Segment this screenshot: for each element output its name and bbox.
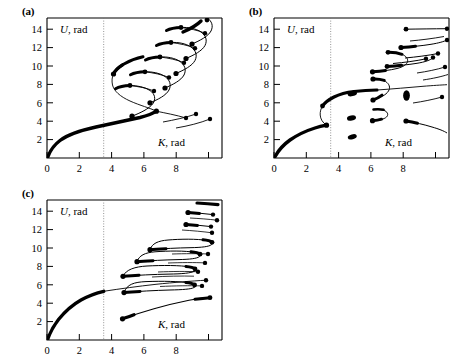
panel-c-xtick-4: 4 (109, 345, 115, 356)
panel-b-ytick-14: 14 (259, 24, 270, 35)
panel-c-xlabel: K, rad (157, 318, 185, 330)
panel-b-fold-markers (320, 27, 449, 128)
panel-c-xtick-6: 6 (141, 345, 146, 356)
panel-b-ytick-12: 12 (259, 42, 270, 53)
panel-a-yticks (47, 29, 53, 139)
panel-b-xtick-2: 2 (304, 163, 309, 174)
panel-b-xticks (274, 152, 436, 158)
panel-a-xticks (47, 152, 209, 158)
panel-c-xlabel-unit: , rad (165, 318, 185, 330)
panel-a-fold-markers (111, 18, 212, 122)
panel-b-ytick-2: 2 (264, 134, 269, 145)
panel-b-axes (274, 18, 449, 158)
panel-a-xtick-6: 6 (141, 163, 146, 174)
panel-c-ytick-8: 8 (37, 261, 42, 272)
panel-a-ytick-10: 10 (32, 61, 43, 72)
panel-a-xtick-2: 2 (77, 163, 82, 174)
panel-c-plot: 2 4 6 8 10 12 14 0 2 4 6 8 U, rad K, rad (0, 182, 230, 364)
panel-b-label: (b) (249, 5, 262, 17)
panel-a-ylabel-unit: , rad (68, 23, 88, 35)
panel-a-xlabel-unit: , rad (165, 136, 185, 148)
panel-b-yticks (274, 29, 280, 139)
panel-a-ytick-12: 12 (32, 42, 43, 53)
panel-a-ytick-6: 6 (37, 98, 42, 109)
panel-a-xtick-4: 4 (109, 163, 115, 174)
panel-c-ytick-6: 6 (37, 280, 42, 291)
panel-c-xtick-2: 2 (77, 345, 82, 356)
panel-a-ytick-4: 4 (37, 116, 43, 127)
panel-b-xtick-8: 8 (401, 163, 406, 174)
panel-a: (a) 2 4 6 8 10 (0, 0, 230, 182)
panel-c-xtick-0: 0 (44, 345, 49, 356)
panel-c-ylabel-unit: , rad (68, 205, 88, 217)
panel-b-ytick-4: 4 (264, 116, 270, 127)
panel-b-ytick-10: 10 (259, 61, 270, 72)
panel-a-ylabel: U, rad (60, 23, 88, 35)
panel-b-plot: 2 4 6 8 10 12 14 0 2 4 6 8 U, rad K, rad (227, 0, 457, 182)
panel-a-curves (48, 18, 212, 157)
panel-c-ytick-12: 12 (32, 224, 43, 235)
panel-c-ytick-14: 14 (32, 206, 43, 217)
panel-a-xtick-8: 8 (174, 163, 179, 174)
panel-c: (c) 2 4 6 8 10 12 14 (0, 182, 230, 364)
panel-c-ytick-2: 2 (37, 316, 42, 327)
panel-a-ytick-8: 8 (37, 79, 42, 90)
panel-c-label: (c) (22, 187, 34, 199)
panel-a-xtick-0: 0 (44, 163, 49, 174)
panel-b-ytick-6: 6 (264, 98, 269, 109)
panel-c-curves (48, 203, 219, 339)
panel-c-ytick-4: 4 (37, 298, 43, 309)
panel-b-xtick-6: 6 (368, 163, 373, 174)
panel-b-ylabel-unit: , rad (295, 23, 315, 35)
panel-a-label: (a) (22, 5, 34, 17)
panel-c-yticks (47, 211, 53, 321)
panel-a-plot: 2 4 6 8 10 12 14 0 2 4 6 8 U, rad K, r (0, 0, 230, 182)
panel-b: (b) 2 4 6 8 10 12 14 (227, 0, 457, 182)
panel-b-xlabel: K, rad (384, 136, 412, 148)
bifurcation-figure: (a) 2 4 6 8 10 (0, 0, 457, 364)
panel-c-xtick-8: 8 (174, 345, 179, 356)
panel-a-xlabel: K, rad (157, 136, 185, 148)
panel-b-xtick-4: 4 (336, 163, 342, 174)
panel-a-axes (47, 18, 222, 158)
panel-c-ytick-10: 10 (32, 243, 43, 254)
panel-c-ylabel: U, rad (60, 205, 88, 217)
panel-c-xticks (47, 334, 209, 340)
panel-b-ylabel: U, rad (287, 23, 315, 35)
panel-a-ytick-14: 14 (32, 24, 43, 35)
panel-b-curves (275, 27, 449, 158)
panel-a-ytick-2: 2 (37, 134, 42, 145)
panel-b-xlabel-unit: , rad (392, 136, 412, 148)
panel-b-xtick-0: 0 (271, 163, 276, 174)
panel-b-ytick-8: 8 (264, 79, 269, 90)
